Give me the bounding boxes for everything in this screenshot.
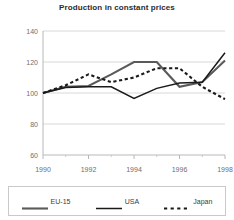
legend-swatch-eu-15 — [22, 198, 48, 205]
y-tick-label: 120 — [26, 59, 38, 66]
series-line-usa — [43, 53, 225, 99]
x-tick-label: 1994 — [126, 166, 142, 173]
legend-item-usa: USA — [96, 198, 139, 205]
x-axis-ticks — [43, 155, 225, 159]
x-tick-label: 1992 — [81, 166, 97, 173]
y-tick-label: 100 — [26, 90, 38, 97]
y-axis-tick-labels: 140 120 100 80 60 — [26, 28, 38, 159]
x-tick-label: 1990 — [35, 166, 51, 173]
legend-swatch-japan — [164, 198, 190, 205]
legend-swatch-usa — [96, 198, 122, 205]
y-tick-label: 80 — [30, 121, 38, 128]
x-tick-label: 1996 — [172, 166, 188, 173]
x-axis-tick-labels: 1990 1992 1994 1996 1998 — [35, 166, 233, 173]
legend-label-japan: Japan — [193, 198, 212, 205]
legend-item-eu-15: EU-15 — [22, 198, 71, 205]
grid-lines — [43, 31, 225, 124]
y-tick-label: 60 — [30, 152, 38, 159]
data-series-group — [43, 53, 225, 99]
chart-legend: EU-15 USA Japan — [8, 186, 226, 216]
legend-label-usa: USA — [125, 198, 139, 205]
x-tick-label: 1998 — [217, 166, 233, 173]
legend-item-japan: Japan — [164, 198, 212, 205]
legend-label-eu-15: EU-15 — [51, 198, 71, 205]
chart-container: Production in constant prices 140 120 — [0, 0, 234, 220]
y-tick-label: 140 — [26, 28, 38, 35]
